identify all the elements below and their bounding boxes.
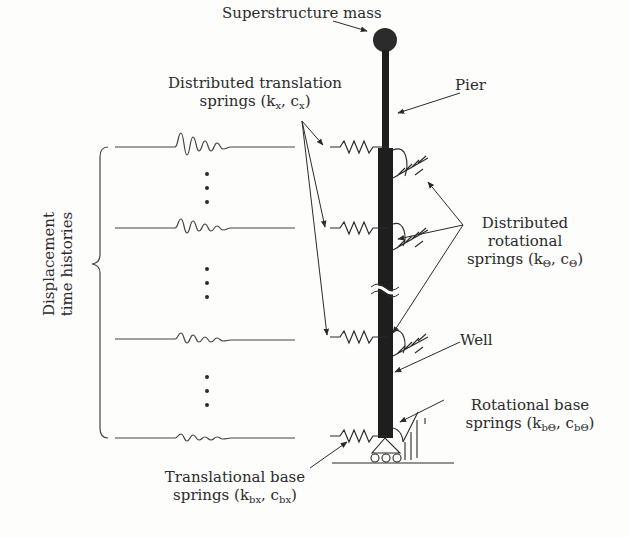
distributed-rotational-springs-label: Distributed rotational springs (kΘ, cΘ) xyxy=(450,214,600,268)
pier-label: Pier xyxy=(455,76,486,94)
translational-base-springs-label: Translational base springs (kbx, cbx) xyxy=(150,468,320,504)
pier-column xyxy=(382,50,389,150)
label-line: Translational base xyxy=(150,468,320,486)
label-line: springs (kΘ, cΘ) xyxy=(450,250,600,268)
label-line: Rotational base xyxy=(450,396,610,414)
label-line: springs (kbx, cbx) xyxy=(150,486,320,504)
ellipsis-dots xyxy=(205,172,209,407)
well-label: Well xyxy=(460,331,493,349)
distributed-translation-springs-label: Distributed translation springs (kx, cx) xyxy=(160,74,350,110)
label-line: rotational xyxy=(450,232,600,250)
label-line: Distributed translation xyxy=(160,74,350,92)
label-line: Distributed xyxy=(450,214,600,232)
superstructure-mass-label: Superstructure mass xyxy=(222,4,382,22)
superstructure-mass-icon xyxy=(373,28,397,52)
label-line: time histories xyxy=(58,212,76,316)
displacement-time-histories-label: Displacement time histories xyxy=(40,212,76,316)
rotational-base-springs-label: Rotational base springs (kbΘ, cbΘ) xyxy=(450,396,610,432)
brace xyxy=(92,147,108,438)
label-line: springs (kbΘ, cbΘ) xyxy=(450,414,610,432)
displacement-time-histories xyxy=(115,133,295,441)
label-line: Displacement xyxy=(40,212,58,316)
label-line: springs (kx, cx) xyxy=(160,92,350,110)
pier-well-model-diagram: Superstructure mass Pier Distributed tra… xyxy=(0,0,629,537)
